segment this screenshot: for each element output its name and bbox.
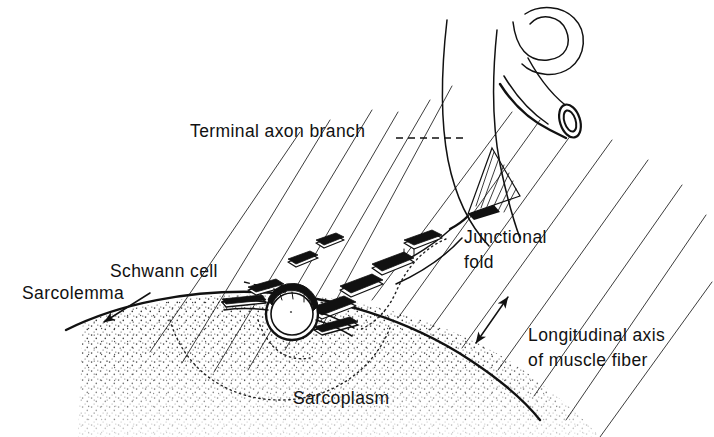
longitudinal-axis-arrow: [476, 297, 508, 343]
nerve-taper-hatch: [450, 148, 520, 229]
nerve-trunk: [442, 8, 585, 246]
label-schwann-cell: Schwann cell: [110, 261, 218, 281]
junctional-fold-item: [316, 233, 344, 248]
neuromuscular-junction-figure: Terminal axon branch Junctional fold Sch…: [0, 0, 714, 437]
label-longitudinal-axis-line2: of muscle fiber: [528, 350, 648, 370]
junctional-fold-item: [404, 230, 442, 256]
diagram-canvas: Terminal axon branch Junctional fold Sch…: [0, 0, 714, 437]
label-longitudinal-axis-line1: Longitudinal axis: [528, 325, 665, 345]
label-junctional-fold-line2: fold: [464, 252, 494, 272]
sarcoplasm-region: [78, 294, 600, 437]
label-junctional-fold-line1: Junctional: [464, 227, 547, 247]
label-sarcolemma: Sarcolemma: [22, 283, 124, 303]
junctional-fold-item: [288, 251, 318, 267]
label-terminal-axon-branch: Terminal axon branch: [190, 121, 365, 141]
label-sarcoplasm: Sarcoplasm: [293, 388, 389, 408]
